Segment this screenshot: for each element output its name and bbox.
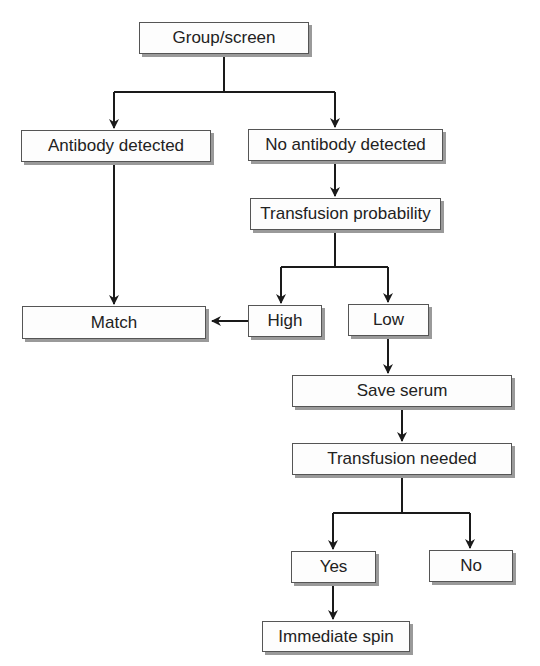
node-yes: Yes <box>291 551 376 583</box>
node-no-antibody-detected: No antibody detected <box>248 129 443 161</box>
node-match: Match <box>22 306 206 339</box>
node-group-screen: Group/screen <box>139 22 309 54</box>
node-no: No <box>429 550 513 582</box>
node-antibody-detected: Antibody detected <box>21 130 211 162</box>
node-transfusion-needed: Transfusion needed <box>292 443 512 475</box>
node-high: High <box>248 305 322 337</box>
flowchart: Group/screen Antibody detected No antibo… <box>0 0 540 666</box>
node-low: Low <box>348 304 429 336</box>
node-immediate-spin: Immediate spin <box>262 621 410 652</box>
node-transfusion-probability: Transfusion probability <box>250 198 441 230</box>
node-save-serum: Save serum <box>292 375 512 407</box>
